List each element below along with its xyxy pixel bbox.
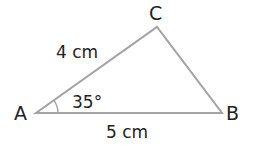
side-label-ac: 4 cm <box>56 42 98 62</box>
side-label-ab: 5 cm <box>106 122 148 142</box>
triangle-abc <box>36 27 222 113</box>
angle-label-a: 35° <box>72 92 102 112</box>
angle-arc-a <box>54 101 58 113</box>
triangle-diagram: A B C 4 cm 5 cm 35° <box>0 0 262 156</box>
vertex-label-c: C <box>149 2 162 24</box>
vertex-label-b: B <box>226 102 239 124</box>
vertex-label-a: A <box>14 102 27 124</box>
